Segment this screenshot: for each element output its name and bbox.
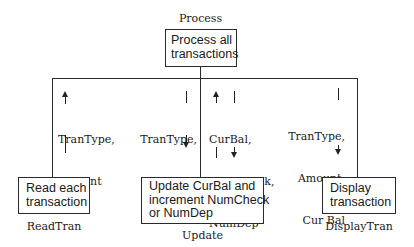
module-box-process: Process all transactions [165, 29, 237, 67]
connector-to-readtran [52, 78, 53, 177]
flow-label-update-inout: CurBal, NumCheck, NumDep [209, 105, 274, 245]
box-line: or NumDep [149, 207, 263, 221]
module-name-process: Process [165, 12, 236, 25]
module-box-displaytran: Display transaction [322, 177, 396, 214]
box-line: transactions [171, 47, 236, 61]
module-name-readtran: ReadTran [18, 220, 90, 233]
box-line: transaction [330, 195, 395, 209]
module-name-displaytran: DisplayTran [316, 220, 402, 233]
box-line: transaction [26, 195, 89, 209]
box-line: Read each [26, 181, 89, 195]
box-line: increment NumCheck [149, 194, 263, 208]
connector-to-update [200, 78, 201, 177]
module-box-readtran: Read each transaction [18, 177, 90, 214]
module-box-update: Update CurBal and increment NumCheck or … [141, 177, 264, 224]
box-line: Update CurBal and [149, 180, 263, 194]
connector-to-displaytran [357, 78, 358, 177]
connector-root-down [200, 67, 201, 78]
module-name-update: Update [141, 229, 264, 242]
box-line: Process all [171, 33, 236, 47]
connector-horizontal-bus [52, 78, 358, 79]
box-line: Display [330, 181, 395, 195]
